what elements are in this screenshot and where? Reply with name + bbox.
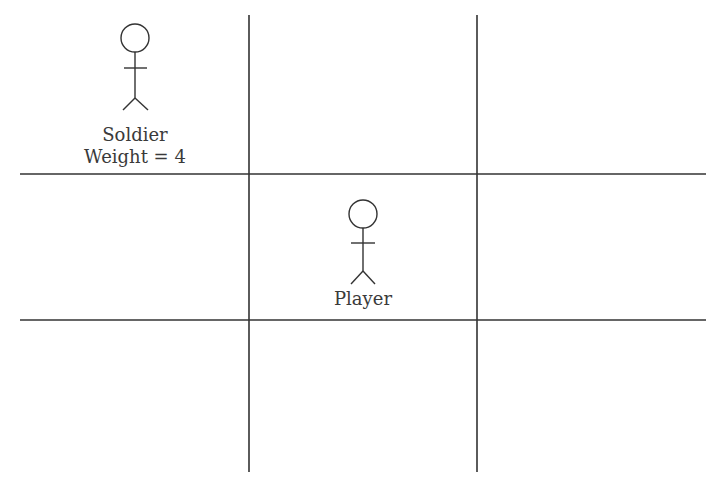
- soldier-name: Soldier: [70, 124, 200, 146]
- soldier-weight: Weight = 4: [70, 146, 200, 168]
- soldier-label: Soldier Weight = 4: [70, 124, 200, 168]
- player-name: Player: [313, 288, 413, 310]
- grid-diagram: [0, 0, 710, 501]
- player-label: Player: [313, 288, 413, 310]
- player-stick-figure-icon: [349, 200, 377, 284]
- soldier-stick-figure-icon: [121, 24, 149, 110]
